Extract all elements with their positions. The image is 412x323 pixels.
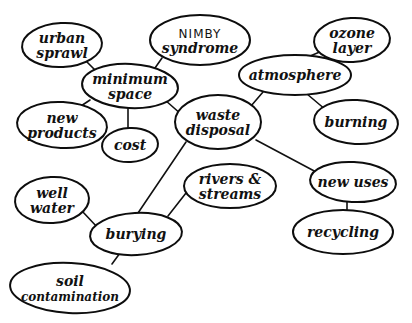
node-well-water: wellwater [14, 175, 90, 225]
node-label: syndrome [162, 40, 239, 56]
node-new-uses: new uses [309, 160, 397, 204]
node-label: disposal [186, 122, 250, 138]
node-label: new uses [318, 174, 389, 190]
node-nimby: NIMBYsyndrome [150, 15, 250, 65]
concept-map-canvas: urbansprawlNIMBYsyndromeminimumspaceozon… [0, 0, 412, 323]
node-cost: cost [101, 127, 159, 164]
node-label: layer [333, 40, 373, 56]
node-label: streams [199, 186, 262, 202]
edge-atmosphere-to-waste-disposal [251, 92, 263, 106]
node-label: contamination [21, 290, 119, 304]
node-label: cost [114, 137, 147, 153]
node-rivers-streams: rivers &streams [184, 164, 276, 208]
node-label: soil [56, 273, 84, 289]
node-label: new [46, 110, 78, 126]
node-burying: burying [89, 211, 183, 258]
nodes-layer: urbansprawlNIMBYsyndromeminimumspaceozon… [9, 15, 399, 316]
node-label: water [30, 200, 75, 216]
node-minimum-space: minimumspace [81, 62, 179, 111]
node-new-products: newproducts [16, 100, 108, 151]
node-ozone-layer: ozonelayer [313, 16, 391, 64]
node-label: space [108, 86, 152, 102]
node-label: burning [325, 114, 388, 130]
node-label: rivers & [199, 171, 262, 187]
edge-waste-disposal-to-new-uses [256, 140, 318, 173]
node-burning: burning [313, 98, 399, 146]
node-label: NIMBY [179, 27, 222, 41]
edge-nimby-to-minimum-space [155, 58, 162, 68]
node-atmosphere: atmosphere [239, 55, 351, 95]
node-urban-sprawl: urbansprawl [21, 21, 103, 69]
node-label: sprawl [36, 45, 88, 61]
edge-rivers-streams-to-burying [168, 193, 186, 216]
node-soil-contamination: soilcontamination [9, 260, 131, 316]
node-waste-disposal: wastedisposal [175, 95, 261, 149]
node-label: waste [196, 107, 240, 123]
node-label: urban [39, 30, 86, 46]
node-label: burying [106, 226, 167, 242]
node-label: ozone [329, 25, 375, 41]
node-label: minimum [92, 71, 167, 87]
node-label: well [36, 185, 68, 201]
node-label: atmosphere [249, 67, 342, 83]
node-recycling: recycling [293, 210, 393, 254]
concept-map: urbansprawlNIMBYsyndromeminimumspaceozon… [0, 0, 412, 323]
node-label: recycling [307, 224, 379, 240]
node-label: products [27, 125, 96, 141]
